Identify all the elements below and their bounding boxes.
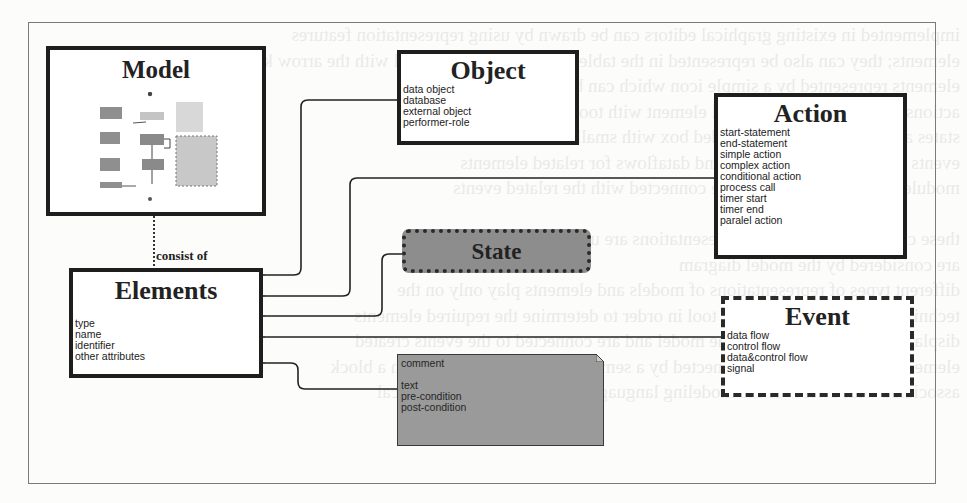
model-title: Model [50,57,262,82]
object-title: Object [401,58,575,84]
action-items: start-statement end-statement simple act… [718,127,903,226]
elements-attributes: type name identifier other attributes [73,318,259,362]
object-box[interactable]: Object data object database external obj… [397,50,579,145]
model-thumbnail-diagram [100,92,220,202]
action-item: paralel action [720,215,903,226]
action-box[interactable]: Action start-statement end-statement sim… [714,93,907,259]
comment-generalization-connector [264,363,397,389]
consist-of-label: consist of [156,248,208,264]
comment-items: comment text pre-condition post-conditio… [398,355,603,416]
event-items: data flow control flow data&control flow… [725,330,910,374]
model-box[interactable]: Model [46,46,266,216]
comment-note-box[interactable]: comment text pre-condition post-conditio… [397,354,604,446]
note-fold-corner-icon [596,354,604,362]
elements-attribute: type [75,318,259,329]
event-item: signal [727,363,910,374]
elements-box[interactable]: Elements type name identifier other attr… [69,268,263,378]
comment-spacer [401,369,600,380]
event-box[interactable]: Event data flow control flow data&contro… [721,296,914,397]
state-title: State [472,240,522,263]
elements-title: Elements [73,278,259,304]
comment-item: post-condition [401,402,600,413]
event-item: data&control flow [727,352,910,363]
event-title: Event [725,304,910,330]
object-item: performer-role [403,117,575,128]
comment-item: comment [401,358,600,369]
state-generalization-connector [264,254,402,316]
elements-attribute: other attributes [75,351,259,362]
object-generalization-connector [264,100,397,275]
action-title: Action [718,101,903,127]
object-items: data object database external object per… [401,84,575,128]
state-box[interactable]: State [402,229,591,273]
